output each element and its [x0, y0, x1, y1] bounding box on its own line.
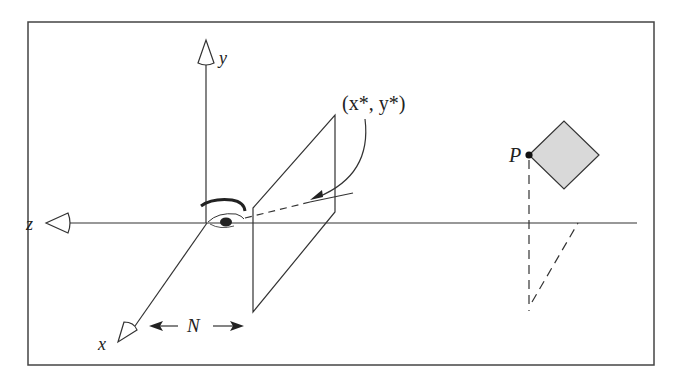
point-p-marker — [525, 151, 532, 158]
perspective-diagram: z y x (x*, y*) N P — [0, 0, 680, 382]
point-p-label: P — [508, 144, 521, 166]
pointer-curve — [318, 119, 366, 197]
object-diamond — [529, 121, 599, 189]
z-axis-label: z — [25, 214, 33, 234]
z-arrow-icon — [46, 213, 70, 233]
x-axis-label: x — [97, 334, 106, 354]
distance-label: N — [186, 315, 201, 336]
diagonal-drop-line — [532, 223, 578, 302]
diagram-frame — [28, 22, 654, 365]
projected-point-label: (x*, y*) — [342, 92, 405, 115]
line-of-sight — [245, 202, 310, 218]
projection-plane — [253, 115, 335, 312]
z-axis — [46, 213, 637, 233]
y-arrow-icon — [198, 40, 214, 65]
pointer-arrowhead-icon — [310, 190, 323, 200]
x-arrow-icon — [118, 322, 137, 342]
y-axis-label: y — [217, 48, 227, 68]
y-axis — [198, 40, 214, 223]
